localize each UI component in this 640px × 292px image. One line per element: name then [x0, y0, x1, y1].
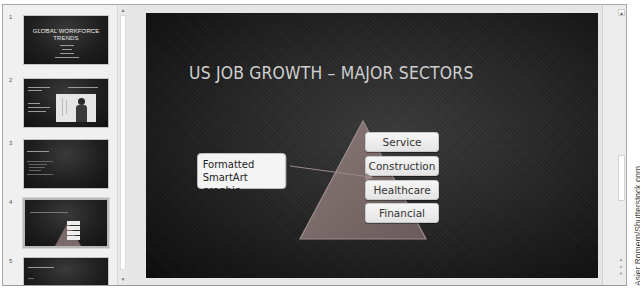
smartart-item-healthcare[interactable]: Healthcare [365, 180, 439, 200]
current-slide[interactable]: US JOB GROWTH – MAJOR SECTORS Service Co… [146, 13, 598, 278]
thumbnail-smartart-box [67, 231, 80, 235]
photo-detail [66, 100, 67, 114]
thumbnail-scrollbar-track[interactable] [120, 15, 126, 270]
next-slide-icon[interactable]: ▼ [617, 271, 625, 277]
thumbnail-text-line [60, 53, 74, 54]
thumbnail-smartart-box [67, 236, 80, 240]
thumbnail-text-line [30, 212, 68, 213]
thumbnail-text-line [68, 87, 98, 88]
thumbnail-text-line [29, 167, 45, 168]
thumbnail-text-line [29, 170, 41, 171]
photo-detail [62, 98, 63, 116]
slide-thumbnail-2[interactable] [23, 78, 109, 128]
slide-thumbnail-3[interactable] [23, 139, 109, 189]
person-head-icon [78, 98, 85, 105]
scroll-down-icon[interactable]: ▼ [120, 276, 126, 282]
thumbnail-text-line [28, 278, 34, 279]
slide-nav-dot-icon[interactable]: ● [617, 264, 625, 270]
thumbnail-text-line [27, 151, 49, 152]
callout-line2: SmartArt graphic [203, 171, 281, 197]
thumbnail-scrollbar[interactable]: ▲ ▼ [117, 5, 127, 285]
thumbnail-title-line1: GLOBAL WORKFORCE [24, 28, 108, 34]
thumbnail-number: 5 [9, 258, 12, 264]
slide-thumbnail-4[interactable] [23, 198, 109, 248]
thumbnail-title-line2: TRENDS [24, 35, 108, 41]
slide-thumbnail-1[interactable]: GLOBAL WORKFORCE TRENDS [23, 15, 109, 65]
thumbnail-smartart-box [67, 221, 80, 225]
thumbnail-photo [56, 94, 96, 122]
slide-thumbnail-pane: 1 GLOBAL WORKFORCE TRENDS 2 3 [3, 5, 117, 285]
scroll-up-icon[interactable]: ▲ [120, 7, 126, 13]
editor-vertical-scrollbar[interactable]: ▲ ▲ ● ▼ [602, 5, 626, 285]
thumbnail-number: 1 [9, 14, 12, 20]
thumbnail-text-line [62, 49, 72, 50]
thumbnail-number: 2 [9, 77, 12, 83]
thumbnail-text-line [28, 87, 50, 88]
smartart-item-financial[interactable]: Financial [365, 203, 439, 223]
thumbnail-text-line [27, 174, 53, 175]
slide-editor: US JOB GROWTH – MAJOR SECTORS Service Co… [127, 5, 602, 285]
thumbnail-text-line [28, 267, 54, 268]
thumbnail-text-line [28, 111, 46, 112]
thumbnail-text-line [29, 164, 47, 165]
smartart-callout: Formatted SmartArt graphic [197, 153, 286, 189]
image-credit: Asier Romero/Shutterstock.com [633, 166, 640, 286]
thumbnail-text-line [27, 161, 53, 162]
callout-line1: Formatted [203, 158, 281, 171]
powerpoint-window: 1 GLOBAL WORKFORCE TRENDS 2 3 [2, 4, 627, 286]
scrollbar-thumb[interactable] [618, 155, 625, 201]
thumbnail-smartart-box [67, 226, 80, 230]
thumbnail-text-line [55, 57, 79, 58]
thumbnail-text-line [28, 107, 50, 108]
callout-arrow-icon [290, 163, 380, 183]
slide-thumbnail-5[interactable] [23, 257, 109, 285]
thumbnail-text-line [28, 103, 40, 104]
scroll-up-icon[interactable]: ▲ [618, 9, 625, 16]
slide-title[interactable]: US JOB GROWTH – MAJOR SECTORS [189, 63, 473, 83]
thumbnail-text-line [28, 90, 42, 91]
thumbnail-number: 3 [9, 140, 12, 146]
thumbnail-number: 4 [9, 199, 12, 205]
thumbnail-text-line [60, 45, 74, 46]
person-body-icon [76, 105, 87, 122]
previous-slide-icon[interactable]: ▲ [617, 257, 625, 263]
smartart-item-service[interactable]: Service [365, 132, 439, 152]
